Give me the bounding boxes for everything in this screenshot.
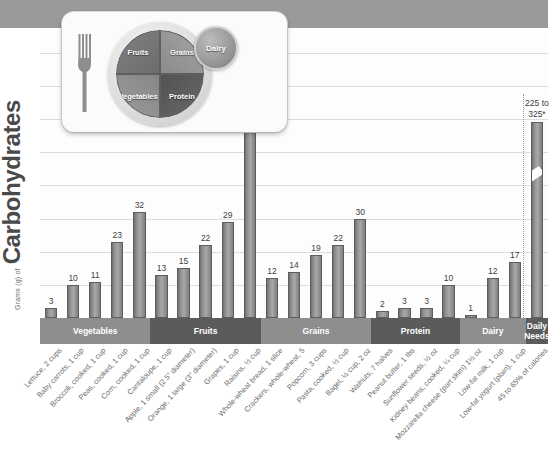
category-band: Grains	[261, 318, 371, 344]
bar: 2	[376, 311, 388, 318]
bar: 65	[244, 103, 256, 318]
bar-fill	[310, 255, 322, 318]
bar: 11	[89, 282, 101, 318]
bar-value-label: 225 to325*	[509, 98, 553, 120]
bar-value-label: 22	[318, 233, 358, 243]
bar-fill	[199, 245, 211, 318]
bar-value-label: 11	[75, 270, 115, 280]
bar-fill	[288, 272, 300, 318]
axis-break-mark	[531, 166, 543, 183]
category-band: Dairy	[460, 318, 526, 344]
bar-fill	[398, 308, 410, 318]
bar-fill	[487, 278, 499, 318]
bar-value-label: 12	[473, 266, 513, 276]
fork-icon	[78, 34, 91, 112]
bar: 15	[177, 268, 189, 318]
daily-needs-divider	[523, 94, 524, 318]
bar-value-label: 1	[451, 303, 491, 313]
bar-value-label: 22	[186, 233, 226, 243]
bar-fill	[531, 122, 543, 318]
bar-fill	[244, 103, 256, 318]
bar: 12	[487, 278, 499, 318]
bar-fill	[376, 311, 388, 318]
y-axis-main-label: Carbohydrates	[0, 100, 26, 264]
bar-value-label: 29	[208, 210, 248, 220]
bar: 22	[199, 245, 211, 318]
bar-value-label: 10	[429, 273, 469, 283]
y-axis-title: Grams (g) of Carbohydrates	[0, 40, 32, 310]
bar: 3	[398, 308, 410, 318]
bar-value-label: 14	[274, 260, 314, 270]
bar: 3	[420, 308, 432, 318]
category-band: Vegetables	[40, 318, 150, 344]
bar-fill	[332, 245, 344, 318]
plate-section-vegetables: Vegetables	[116, 74, 160, 118]
bar-fill	[420, 308, 432, 318]
bar-value-label: 30	[340, 207, 380, 217]
plate-section-protein: Protein	[160, 74, 204, 118]
bar: 10	[442, 285, 454, 318]
bar-fill	[155, 275, 167, 318]
category-band: Protein	[371, 318, 459, 344]
bar: 19	[310, 255, 322, 318]
bar-value-label: 15	[164, 256, 204, 266]
bar-fill	[509, 262, 521, 318]
bar-fill	[45, 308, 57, 318]
bar: 14	[288, 272, 300, 318]
bar-value-label: 32	[119, 200, 159, 210]
bar-fill	[89, 282, 101, 318]
y-axis-units-label: Grams (g) of	[14, 268, 21, 310]
x-axis-labels: Lettuce, 2 cupsBaby carrots, 1 cupBrocco…	[40, 346, 548, 465]
bar: 23	[111, 242, 123, 318]
category-band: Fruits	[150, 318, 260, 344]
myplate-card: Fruits Grains Vegetables Protein Dairy	[62, 12, 287, 132]
bar: 13	[155, 275, 167, 318]
category-bands: VegetablesFruitsGrainsProteinDairyDailyN…	[40, 318, 548, 344]
bar-fill	[111, 242, 123, 318]
bar-value-label: 3	[31, 296, 71, 306]
plate-inner: Fruits Grains Vegetables Protein	[116, 30, 204, 118]
plate-section-dairy: Dairy	[194, 26, 238, 70]
bar-fill	[177, 268, 189, 318]
bar: 12	[266, 278, 278, 318]
bar-value-label: 17	[495, 250, 535, 260]
bar-fill	[67, 285, 79, 318]
bar-daily-needs: 225 to325*	[531, 122, 543, 318]
bar-value-label: 23	[97, 230, 137, 240]
bar: 17	[509, 262, 521, 318]
bar-value-label: 3	[407, 296, 447, 306]
bar: 10	[67, 285, 79, 318]
bar: 22	[332, 245, 344, 318]
bar: 3	[45, 308, 57, 318]
category-band: DailyNeeds	[526, 318, 548, 344]
bar-fill	[222, 222, 234, 318]
bar: 29	[222, 222, 234, 318]
bar-fill	[442, 285, 454, 318]
bar-value-label: 19	[296, 243, 336, 253]
bar-fill	[266, 278, 278, 318]
